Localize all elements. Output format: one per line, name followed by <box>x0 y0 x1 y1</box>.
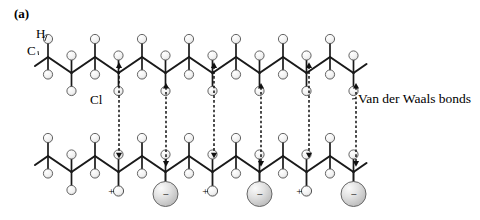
bond-line <box>35 57 48 66</box>
bond-line <box>189 57 213 73</box>
hydrogen-atom <box>278 34 287 43</box>
bond-lines <box>35 39 367 194</box>
hydrogen-atom <box>325 70 334 79</box>
hydrogen-atom <box>114 51 123 60</box>
hydrogen-atom <box>67 51 76 60</box>
bond-line <box>260 57 284 73</box>
vdw-label: Van der Waals bonds <box>358 91 471 106</box>
chlorine-charge-sign: − <box>350 188 356 200</box>
hydrogen-atom <box>43 133 52 142</box>
vdw-arrowhead-down <box>163 161 169 167</box>
bond-line <box>213 57 237 73</box>
bond-line <box>166 57 190 73</box>
bond-line <box>236 57 260 73</box>
annotation-layer: (a) H C Cl Van der Waals bonds <box>14 6 471 107</box>
hydrogen-atom <box>137 70 146 79</box>
hydrogen-sphere <box>207 186 217 196</box>
hydrogen-atom <box>184 133 193 142</box>
bond-line <box>142 156 166 172</box>
hydrogen-atom <box>208 51 217 60</box>
bond-line <box>283 57 307 73</box>
bond-line <box>72 57 96 73</box>
hydrogen-charge-sign: + <box>108 185 114 197</box>
carbon-label: C <box>27 43 36 58</box>
bond-line <box>119 57 143 73</box>
hydrogen-atom <box>67 150 76 159</box>
vdw-arrowhead-up <box>116 62 122 68</box>
panel-label: (a) <box>14 6 29 21</box>
bond-line <box>330 156 354 172</box>
hydrogen-atom <box>137 34 146 43</box>
bond-line <box>119 156 143 172</box>
vdw-leader-line <box>352 99 356 100</box>
hydrogen-atom <box>184 34 193 43</box>
hydrogen-atom <box>278 70 287 79</box>
bond-line <box>166 156 190 172</box>
chlorine-charge-sign: − <box>162 188 168 200</box>
hydrogen-atom-positive: + <box>202 185 217 197</box>
polymer-vdw-diagram: +−+−+− (a) H C Cl Van der Waals bonds <box>0 0 480 220</box>
hydrogen-atom <box>325 133 334 142</box>
figure-panel: +−+−+− (a) H C Cl Van der Waals bonds <box>0 0 480 220</box>
hydrogen-atom <box>278 169 287 178</box>
bond-line <box>189 156 213 172</box>
bond-line <box>95 57 119 73</box>
bond-line <box>307 156 331 172</box>
hydrogen-atom <box>208 86 217 95</box>
bond-line <box>35 156 48 165</box>
bond-line <box>260 156 284 172</box>
bond-line <box>142 57 166 73</box>
bond-line <box>213 156 237 172</box>
hydrogen-atom <box>90 169 99 178</box>
hydrogen-atom <box>90 34 99 43</box>
hydrogen-charge-sign: + <box>202 185 208 197</box>
bond-line <box>283 156 307 172</box>
bond-line <box>95 156 119 172</box>
chlorine-label: Cl <box>90 92 103 107</box>
hydrogen-atom <box>43 169 52 178</box>
hydrogen-atom <box>349 51 358 60</box>
chlorine-charge-sign: − <box>256 188 262 200</box>
hydrogen-atom-positive: + <box>296 185 311 197</box>
hydrogen-atom <box>255 51 264 60</box>
hydrogen-sphere <box>301 186 311 196</box>
hydrogen-atom <box>43 70 52 79</box>
hydrogen-atom <box>137 133 146 142</box>
bond-line <box>354 64 367 73</box>
bond-line <box>330 57 354 73</box>
hydrogen-atom <box>231 34 240 43</box>
hydrogen-atom <box>90 133 99 142</box>
hydrogen-atom <box>161 51 170 60</box>
chlorine-atom: − <box>153 182 178 207</box>
hydrogen-atom <box>67 86 76 95</box>
hydrogen-charge-sign: + <box>296 185 302 197</box>
bond-line <box>48 57 72 73</box>
hydrogen-atom <box>137 169 146 178</box>
hydrogen-sphere <box>113 186 123 196</box>
hydrogen-atom <box>231 133 240 142</box>
carbon-leader-line <box>38 51 39 55</box>
bond-line <box>72 156 96 172</box>
chlorine-atom: − <box>247 182 272 207</box>
chlorine-atom: − <box>341 182 366 207</box>
hydrogen-atom <box>302 51 311 60</box>
hydrogen-atom <box>255 150 264 159</box>
vdw-arrowhead-up <box>163 83 169 89</box>
hydrogen-atom <box>278 133 287 142</box>
hydrogen-atom <box>325 34 334 43</box>
hydrogen-atom <box>231 70 240 79</box>
hydrogen-atom <box>325 169 334 178</box>
hydrogen-atom <box>184 169 193 178</box>
bond-line <box>48 156 72 172</box>
bond-line <box>236 156 260 172</box>
hydrogen-label: H <box>36 26 45 41</box>
hydrogen-atom <box>67 185 76 194</box>
hydrogen-atom <box>231 169 240 178</box>
hydrogen-atom <box>184 70 193 79</box>
hydrogen-atom <box>90 70 99 79</box>
hydrogen-atom-positive: + <box>108 185 123 197</box>
